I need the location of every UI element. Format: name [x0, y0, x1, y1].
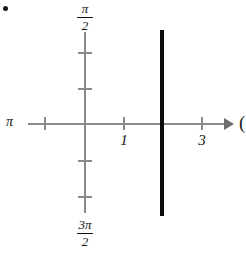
y-axis-tick [78, 88, 92, 90]
x-axis-tick [44, 117, 46, 130]
y-axis-bottom-label-numerator: 3π [63, 218, 107, 233]
x-axis-tick-label-3: 3 [190, 132, 214, 149]
y-axis-top-label-numerator: π [63, 2, 107, 17]
x-axis-tick [201, 117, 203, 130]
x-axis-left-label-pi: π [6, 114, 13, 130]
y-axis-tick [78, 52, 92, 54]
math-graph-figure: π 2 1 3 π 3π 2 ( [0, 0, 246, 257]
plot-vertical-line [160, 30, 164, 216]
x-axis-tick [123, 117, 125, 130]
y-axis-top-label-denominator: 2 [63, 18, 107, 33]
y-axis-bottom-label: 3π 2 [63, 218, 107, 249]
trailing-parenthesis: ( [239, 113, 245, 133]
x-axis-line [28, 123, 228, 125]
x-axis-tick-label-1: 1 [112, 132, 136, 149]
y-axis-tick [78, 196, 92, 198]
bullet-point-icon [3, 6, 8, 11]
y-axis-top-label: π 2 [63, 2, 107, 33]
x-axis-arrow-icon [224, 118, 234, 130]
y-axis-bottom-label-denominator: 2 [63, 234, 107, 249]
y-axis-tick [78, 160, 92, 162]
